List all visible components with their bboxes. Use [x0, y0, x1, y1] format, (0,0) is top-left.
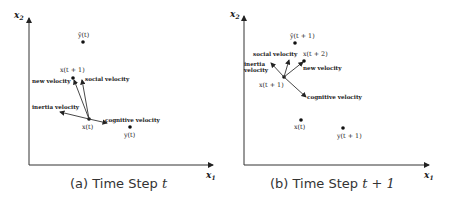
point-y-hat — [293, 41, 297, 45]
label-y: y(t) — [123, 131, 135, 139]
new-velocity-arrow — [74, 80, 89, 119]
inertia-velocity-arrow — [60, 112, 89, 119]
label-new-velocity: new velocity — [32, 78, 71, 85]
point-y — [341, 126, 345, 130]
social-velocity-arrow — [82, 80, 89, 119]
y-axis-label: x2 — [229, 9, 240, 20]
x-axis-label: x1 — [205, 170, 216, 181]
point-x-prev — [299, 118, 303, 122]
label-x-next: x(t + 2) — [303, 50, 328, 58]
label-x-prev: x(t) — [294, 123, 305, 131]
label-y-hat: ŷ(t) — [77, 31, 89, 39]
new-velocity-arrow — [284, 62, 303, 77]
label-x-next: x(t + 1) — [60, 66, 85, 74]
caption-a: (a) Time Step t — [70, 176, 167, 191]
panel-time-step-t-plus-1: x2 x1 ŷ(t + 1) x(t + 2) x(t + 1) x(t) y(… — [226, 0, 453, 207]
label-social-velocity: social velocity — [85, 76, 130, 83]
label-y-hat: ŷ(t + 1) — [289, 32, 315, 40]
social-velocity-arrow — [284, 60, 289, 77]
label-cognitive-velocity: cognitive velocity — [307, 94, 362, 101]
point-y — [128, 125, 132, 129]
label-x-current: x(t + 1) — [259, 81, 284, 89]
label-inertia-velocity: inertia velocity — [32, 104, 80, 111]
x-axis-label: x1 — [423, 170, 434, 181]
y-axis-label: x2 — [13, 10, 24, 21]
label-inertia-line2: velocity — [243, 67, 269, 74]
panel-time-step-t: x2 x1 ŷ(t) x(t + 1) x(t) y(t) new veloci… — [0, 0, 226, 207]
label-x-current: x(t) — [82, 123, 93, 131]
label-cognitive-velocity: cognitive velocity — [105, 117, 160, 124]
point-y-hat — [81, 40, 85, 44]
cognitive-velocity-arrow — [284, 77, 306, 97]
label-y: y(t + 1) — [336, 132, 362, 140]
caption-b: (b) Time Step t + 1 — [270, 176, 395, 191]
label-social-velocity: social velocity — [253, 51, 298, 58]
inertia-velocity-arrow — [271, 63, 284, 77]
point-x-next — [71, 76, 75, 80]
label-new-velocity: new velocity — [303, 65, 342, 72]
